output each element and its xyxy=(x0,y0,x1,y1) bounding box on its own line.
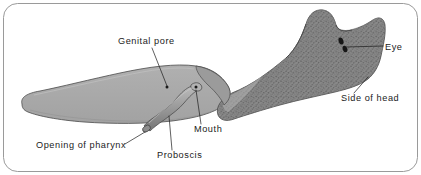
label-mouth: Mouth xyxy=(194,124,222,134)
worm-head xyxy=(214,6,394,126)
label-side-of-head: Side of head xyxy=(341,93,399,103)
label-genital-pore: Genital pore xyxy=(118,36,175,46)
label-opening-of-pharynx: Opening of pharynx xyxy=(36,140,126,150)
figure-container: Genital pore Eye Side of head Mouth Prob… xyxy=(0,0,421,175)
mouth-point xyxy=(195,86,198,89)
leader-opening-of-pharynx xyxy=(125,132,145,144)
label-proboscis: Proboscis xyxy=(157,150,202,160)
label-eye: Eye xyxy=(385,42,402,52)
anatomy-diagram: Genital pore Eye Side of head Mouth Prob… xyxy=(0,0,421,175)
